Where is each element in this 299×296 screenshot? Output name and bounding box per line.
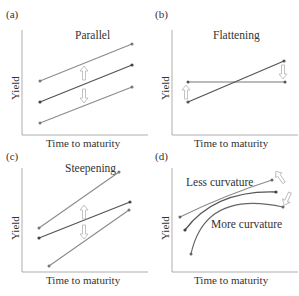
panel-b-flattening: (b) Flattening Time to maturity Yield [155, 8, 298, 149]
annotation-less-curvature: Less curvature [186, 176, 253, 188]
y-axis-label: Yield [159, 76, 171, 100]
down-arrow-icon [80, 89, 88, 103]
panel-title: Flattening [213, 29, 260, 42]
curved-arrow-icon [280, 191, 293, 207]
panel-label: (d) [155, 150, 168, 163]
yield-curve-diagram: (a) Parallel Time to maturity Yield (b) … [0, 0, 299, 296]
down-arrow-icon [80, 225, 88, 239]
panel-label: (c) [6, 150, 19, 163]
x-axis-label: Time to maturity [194, 137, 269, 149]
up-arrow-icon [80, 205, 88, 219]
annotation-more-curvature: More curvature [211, 218, 282, 230]
curved-arrow-icon [273, 169, 288, 185]
x-axis-label: Time to maturity [194, 274, 269, 286]
y-axis-label: Yield [159, 216, 171, 240]
panel-title: Parallel [75, 29, 110, 41]
down-arrow-icon [279, 65, 287, 79]
up-arrow-icon [182, 85, 190, 99]
panel-d-curvature: (d) Time to maturity Yield Less curvatur… [155, 150, 298, 286]
panel-a-parallel: (a) Parallel Time to maturity Yield [6, 8, 148, 149]
panel-title: Steepening [65, 162, 116, 175]
y-axis-label: Yield [9, 216, 21, 240]
x-axis-label: Time to maturity [46, 137, 121, 149]
x-axis-label: Time to maturity [46, 274, 121, 286]
curve-shifted-up [40, 44, 132, 81]
curve-steepened-up [39, 172, 119, 228]
curve-shifted-down [40, 87, 132, 123]
panel-label: (a) [6, 8, 19, 21]
panel-label: (b) [155, 8, 168, 21]
y-axis-label: Yield [9, 76, 21, 100]
up-arrow-icon [80, 66, 88, 80]
panel-c-steepening: (c) Steepening Time to maturity Yield [6, 150, 148, 286]
